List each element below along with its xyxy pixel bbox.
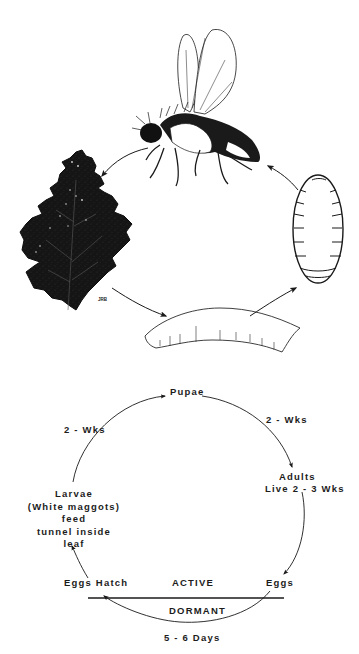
- larvae-line: (White maggots): [26, 501, 122, 514]
- label-eggs-hatch: Eggs Hatch: [64, 577, 128, 590]
- artist-signature: JRB: [98, 297, 108, 302]
- adult-fly-drawing: [132, 29, 260, 186]
- illustration-arrows: [102, 148, 298, 316]
- label-larvae-description: Larvae (White maggots) feed tunnel insid…: [26, 488, 122, 551]
- arc-adults-to-eggs: [284, 492, 304, 574]
- larvae-line: feed: [26, 513, 122, 526]
- arc-hatch-to-larvae: [72, 546, 88, 578]
- label-larvae-to-pupae-duration: 2 - Wks: [64, 424, 106, 437]
- pupa-drawing: [293, 175, 343, 283]
- label-active: ACTIVE: [172, 577, 214, 590]
- larvae-line: tunnel inside: [26, 526, 122, 539]
- mined-leaf-drawing: JRB: [20, 150, 132, 310]
- arrow-adult-to-leaf: [102, 148, 148, 176]
- label-pupae: Pupae: [170, 386, 205, 399]
- larva-drawing: [145, 308, 300, 352]
- label-pupae-to-adults-duration: 2 - Wks: [266, 414, 308, 427]
- label-adults-lifespan: Live 2 - 3 Wks: [265, 483, 345, 496]
- label-eggs: Eggs: [266, 577, 294, 590]
- label-adults: Adults: [279, 471, 316, 484]
- arrow-larva-to-pupa: [250, 288, 296, 316]
- arrow-leaf-to-larva: [112, 288, 166, 316]
- arc-pupae-to-adults: [202, 396, 292, 467]
- life-cycle-illustration: JRB: [0, 0, 359, 654]
- label-dormant-duration: 5 - 6 Days: [164, 632, 220, 645]
- arc-larvae-to-pupae: [73, 396, 165, 482]
- label-dormant: DORMANT: [169, 605, 226, 618]
- larvae-line: leaf: [26, 538, 122, 551]
- larvae-line: Larvae: [26, 488, 122, 501]
- arrow-pupa-to-adult: [268, 166, 298, 190]
